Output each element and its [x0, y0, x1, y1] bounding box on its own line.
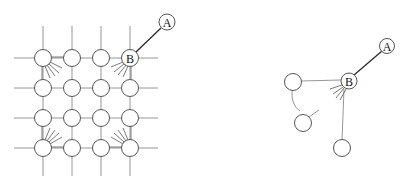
edge-left-node-to-b — [301, 80, 341, 81]
stub-edge-lower-node — [309, 110, 319, 117]
node-bottom — [334, 140, 351, 157]
node-a-right-label: A — [383, 40, 392, 54]
lattice-vertical-edges — [43, 26, 130, 176]
lattice-bond-edges — [42, 57, 131, 147]
right-reduced-panel: B A — [285, 39, 395, 157]
node-b-right: B — [341, 73, 357, 89]
left-lattice-panel: B A — [14, 14, 175, 176]
edge-b-to-a-right — [354, 51, 382, 75]
diagram-canvas: B A — [0, 0, 409, 188]
diagram-figure: B A — [0, 0, 409, 188]
node-a-right: A — [380, 39, 395, 54]
node-b-right-label: B — [345, 75, 353, 89]
corner-fan-marks — [45, 62, 128, 144]
curved-edge-left-to-lower — [292, 91, 300, 111]
edge-b-to-a-left — [136, 28, 161, 52]
node-left — [285, 74, 302, 91]
node-b-left-label: B — [126, 52, 134, 66]
lattice-horizontal-edges — [14, 58, 158, 148]
node-a-left: A — [159, 14, 175, 30]
node-lower-left — [295, 115, 312, 132]
node-b-left: B — [122, 50, 139, 67]
node-a-left-label: A — [163, 16, 172, 30]
